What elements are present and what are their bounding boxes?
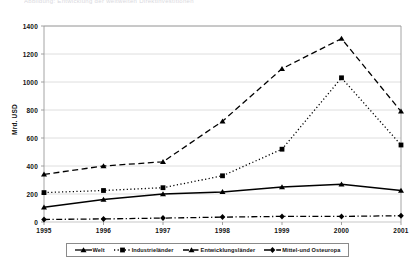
y-axis-tick: 1400 <box>4 23 38 30</box>
data-point-marker <box>398 213 404 219</box>
x-axis-tick: 1997 <box>155 227 170 234</box>
legend-key-icon <box>114 246 131 254</box>
data-point-marker <box>279 213 285 219</box>
legend-item-mittel-und-osteuropa[interactable]: Mittel-und Osteuropa <box>264 246 340 254</box>
series-mittel-und-osteuropa <box>41 213 404 223</box>
series-line <box>44 184 401 207</box>
data-point-marker <box>41 216 47 222</box>
legend-label: Entwicklungsländer <box>201 247 256 253</box>
data-point-marker <box>101 188 106 193</box>
data-point-marker <box>101 216 107 222</box>
data-point-marker <box>120 248 125 253</box>
x-axis-tick: 1998 <box>215 227 230 234</box>
y-axis-tick: 600 <box>4 135 38 142</box>
series-line <box>44 39 401 175</box>
plot-area <box>44 26 401 222</box>
legend-label: Industrieländer <box>132 247 174 253</box>
series-entwicklungsl-nder <box>41 36 404 177</box>
data-point-marker <box>220 214 226 220</box>
legend-item-industrieländer[interactable]: Industrieländer <box>114 246 174 254</box>
x-axis-tick: 2000 <box>334 227 349 234</box>
legend-item-entwicklungsländer[interactable]: Entwicklungsländer <box>183 246 256 254</box>
y-axis-tick: 1000 <box>4 79 38 86</box>
data-point-marker <box>280 147 285 152</box>
legend-key-icon <box>75 246 92 254</box>
x-axis-tick: 1996 <box>96 227 111 234</box>
legend-key-icon <box>264 246 281 254</box>
data-point-marker <box>339 213 345 219</box>
chart-root: Abbildung: Entwicklung der weltweiten Di… <box>0 0 415 266</box>
legend-item-welt[interactable]: Welt <box>75 246 105 254</box>
x-axis-tick: 2001 <box>393 227 408 234</box>
data-point-marker <box>160 215 166 221</box>
y-axis-tick: 1200 <box>4 51 38 58</box>
data-point-marker <box>399 143 404 148</box>
series-welt <box>41 181 404 209</box>
x-axis-tick: 1999 <box>274 227 289 234</box>
series-industriel-nder <box>42 75 404 195</box>
legend-label: Welt <box>93 247 105 253</box>
data-point-marker <box>220 173 225 178</box>
data-point-marker <box>339 75 344 80</box>
data-point-marker <box>161 185 166 190</box>
legend-label: Mittel-und Osteuropa <box>282 247 340 253</box>
y-axis-tick: 200 <box>4 191 38 198</box>
data-point-marker <box>279 66 285 71</box>
y-axis-ticks: 0200400600800100012001400 <box>4 0 38 266</box>
cut-off-title: Abbildung: Entwicklung der weltweiten Di… <box>24 0 214 5</box>
data-point-marker <box>339 36 345 41</box>
x-axis-tick: 1995 <box>36 227 51 234</box>
y-axis-tick: 400 <box>4 163 38 170</box>
legend-key-icon <box>183 246 200 254</box>
series-canvas <box>44 26 401 222</box>
chart-legend: WeltIndustrieländerEntwicklungsländerMit… <box>66 243 349 257</box>
y-axis-tick: 0 <box>4 219 38 226</box>
data-point-marker <box>42 190 47 195</box>
y-axis-tick: 800 <box>4 107 38 114</box>
data-point-marker <box>270 247 276 253</box>
